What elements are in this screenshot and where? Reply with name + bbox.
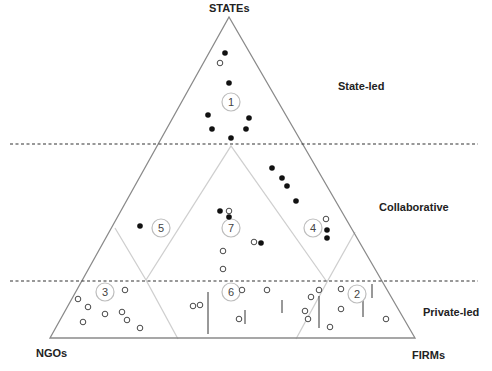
open-point <box>190 303 196 309</box>
open-point <box>137 325 143 331</box>
vertex-label-firms: FIRMs <box>412 349 445 361</box>
svg-text:2: 2 <box>354 288 360 300</box>
region-marker-1: 1 <box>222 93 240 111</box>
open-point <box>119 309 125 315</box>
svg-text:5: 5 <box>158 222 164 234</box>
open-point <box>302 308 308 314</box>
open-point <box>338 306 344 312</box>
ternary-diagram: 1234567 <box>0 0 492 371</box>
filled-point <box>293 198 299 204</box>
svg-text:1: 1 <box>228 96 234 108</box>
filled-point <box>324 227 330 233</box>
open-point <box>327 324 333 330</box>
open-point <box>80 319 86 325</box>
filled-point <box>222 50 228 56</box>
open-point <box>226 208 232 214</box>
svg-text:3: 3 <box>102 286 108 298</box>
open-point <box>124 317 130 323</box>
band-label-collaborative: Collaborative <box>379 201 449 213</box>
open-point <box>316 287 322 293</box>
band-label-state-led: State-led <box>338 80 384 92</box>
filled-point <box>324 235 330 241</box>
open-point <box>305 316 311 322</box>
filled-point <box>243 126 249 132</box>
vertex-label-ngos: NGOs <box>36 347 67 359</box>
region-markers: 1234567 <box>96 93 366 303</box>
filled-point <box>137 223 143 229</box>
filled-point <box>217 208 223 214</box>
open-point <box>220 266 226 272</box>
svg-text:6: 6 <box>228 286 234 298</box>
open-point <box>85 304 91 310</box>
open-point <box>338 286 344 292</box>
open-point <box>102 311 108 317</box>
open-point <box>323 216 329 222</box>
filled-point <box>226 214 232 220</box>
open-point <box>308 294 314 300</box>
open-point <box>122 287 128 293</box>
filled-point <box>226 80 232 86</box>
region-marker-2: 2 <box>348 285 366 303</box>
filled-point <box>258 240 264 246</box>
open-point <box>251 239 257 245</box>
region-marker-5: 5 <box>152 219 170 237</box>
open-point <box>264 287 270 293</box>
region-marker-6: 6 <box>222 283 240 301</box>
filled-point <box>228 135 234 141</box>
open-point <box>220 248 226 254</box>
open-point <box>75 296 81 302</box>
filled-point <box>209 126 215 132</box>
open-point <box>383 316 389 322</box>
open-point <box>236 316 242 322</box>
region-marker-7: 7 <box>222 219 240 237</box>
filled-point <box>269 165 275 171</box>
filled-point <box>284 183 290 189</box>
filled-point <box>279 175 285 181</box>
region-marker-3: 3 <box>96 283 114 301</box>
band-label-private-led: Private-led <box>423 306 479 318</box>
open-point <box>197 302 203 308</box>
filled-point <box>246 115 252 121</box>
open-point <box>217 60 223 66</box>
svg-text:4: 4 <box>310 222 316 234</box>
open-point <box>239 287 245 293</box>
vertex-label-states: STATEs <box>209 2 250 14</box>
region-marker-4: 4 <box>304 219 322 237</box>
filled-point <box>205 112 211 118</box>
filled-points <box>137 50 330 246</box>
svg-text:7: 7 <box>228 222 234 234</box>
